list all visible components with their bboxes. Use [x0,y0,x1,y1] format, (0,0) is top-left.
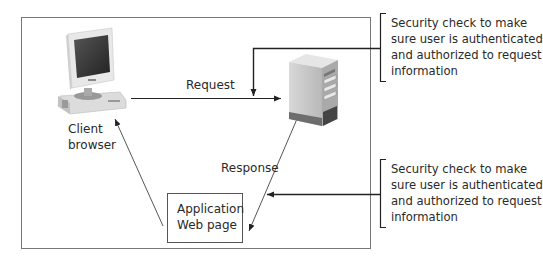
annotation-line: sure user is authenticated [391,177,543,193]
annotation-line: Security check to make [391,161,543,177]
annotation-line: information [391,63,543,79]
annotation-line: sure user is authenticated [391,31,543,47]
application-web-page-box: Application Web page [167,193,243,243]
top-annotation-bracket [381,14,387,82]
client-label-line1: Client [68,121,116,137]
bottom-annotation-bracket [381,160,387,228]
desktop-computer-icon [58,28,126,114]
annotation-line: information [391,209,543,225]
top-security-annotation: Security check to make sure user is auth… [391,15,543,79]
annotation-line: Security check to make [391,15,543,31]
annotation-line: and authorized to request [391,193,543,209]
client-label-line2: browser [68,137,116,153]
client-label: Client browser [68,121,116,153]
request-label: Request [186,77,235,93]
annotation-line: and authorized to request [391,47,543,63]
app-to-client-arrow [115,119,163,226]
app-page-label-line1: Application [177,201,242,217]
response-label: Response [221,160,279,176]
app-page-label-line2: Web page [177,217,242,233]
server-tower-icon [289,54,338,126]
bottom-security-annotation: Security check to make sure user is auth… [391,161,543,225]
